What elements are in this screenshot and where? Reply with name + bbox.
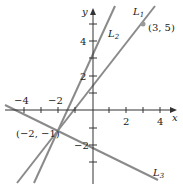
- line-L1: [17, 6, 155, 183]
- y-axis-label: y: [81, 6, 88, 17]
- coordinate-plane-figure: y x −4 −2 2 4 4 2 −2 L1 L2 L3 (3, 5) (−2…: [0, 0, 183, 192]
- tick-label-x-m2: −2: [48, 95, 63, 106]
- line-L2: [34, 6, 115, 183]
- tick-label-y-4: 4: [80, 36, 86, 47]
- graph-canvas: y x −4 −2 2 4 4 2 −2 L1 L2 L3 (3, 5) (−2…: [0, 0, 183, 192]
- tick-label-y-2: 2: [80, 71, 86, 82]
- label-L1: L1: [132, 6, 144, 19]
- tick-label-x-4: 4: [157, 116, 163, 127]
- tick-label-y-m2: −2: [74, 140, 89, 151]
- point-label-m2-m1: (−2, −1): [16, 128, 60, 139]
- point-3-5: [141, 22, 146, 27]
- tick-label-x-m4: −4: [14, 95, 29, 106]
- y-axis-arrow-icon: [90, 8, 96, 15]
- tick-label-x-2: 2: [123, 116, 129, 127]
- label-L2: L2: [107, 28, 120, 41]
- point-label-3-5: (3, 5): [148, 22, 175, 33]
- x-axis-label: x: [172, 112, 178, 123]
